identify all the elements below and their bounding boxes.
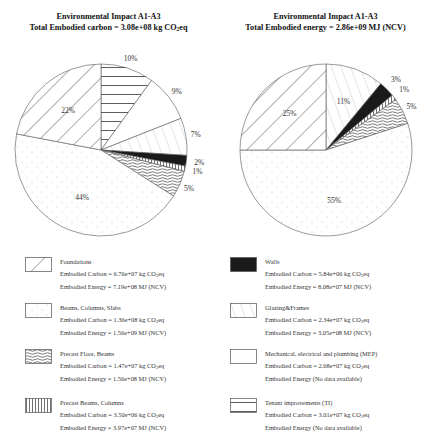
legend-text: WallsEmbodied Carbon = 5.84e+06 kg CO2eq… [265, 256, 371, 293]
legend-item-precast-beams-columns: Precast Beams, ColumnsEmbodied Carbon = … [25, 397, 225, 441]
legend-energy: Embodied Energy = 3.97e+07 MJ (NCV) [60, 422, 166, 434]
legend-carbon: Embodied Carbon = 3.01e+07 kg CO2eq [265, 409, 369, 423]
legend-carbon-unit: eq [158, 270, 164, 277]
legend-carbon: Embodied Carbon = 1.47e+07 kg CO2eq [60, 360, 166, 374]
legend-swatch-solid [230, 257, 257, 272]
legend-energy: Embodied Energy = 7.19e+08 MJ (NCV) [60, 281, 166, 293]
legend-item-mechanical-electrical-and-plumbing-mep: Mechanical, electrical and plumbing (MEP… [230, 348, 430, 392]
pie-label-tenant-improvements-ti: 10% [124, 54, 138, 63]
legend-carbon-value: Embodied Carbon = 2.68e+07 kg CO [265, 362, 361, 369]
legend-text: Tenant improvements (TI)Embodied Carbon … [265, 397, 369, 434]
pie-slice-foundations [240, 64, 326, 150]
legend-item-walls: WallsEmbodied Carbon = 5.84e+06 kg CO2eq… [230, 256, 430, 300]
legend-energy: Embodied Energy (No data available) [265, 373, 377, 385]
legend-carbon-unit: eq [363, 316, 369, 323]
pie-left: 10%9%7%2%1%5%44%22% [15, 54, 204, 236]
pie-label-mechanical-electrical-and-plumbing-mep: 9% [172, 87, 182, 96]
legend-carbon-unit: eq [158, 316, 164, 323]
legend-name: Mechanical, electrical and plumbing (MEP… [265, 348, 377, 360]
legend-carbon: Embodied Carbon = 2.68e+07 kg CO2eq [265, 360, 377, 374]
legend-carbon-value: Embodied Carbon = 3.01e+07 kg CO [265, 411, 361, 418]
legend-energy: Embodied Energy = 8.08e+07 MJ (NCV) [265, 281, 371, 293]
pie-label-precast-floor-beams: 5% [184, 184, 194, 193]
legend-name: Tenant improvements (TI) [265, 397, 369, 409]
legend-carbon-unit: eq [158, 411, 164, 418]
legend-carbon-value: Embodied Carbon = 3.50e+06 kg CO [60, 411, 156, 418]
legend-carbon-unit: eq [363, 270, 369, 277]
pie-label-precast-beams-columns: 1% [193, 167, 203, 176]
legend-swatch-diag-light [230, 303, 257, 318]
legend-carbon: Embodied Carbon = 5.84e+06 kg CO2eq [265, 268, 371, 282]
legend-carbon-value: Embodied Carbon = 1.47e+07 kg CO [60, 362, 156, 369]
pie-label-foundations: 25% [283, 109, 297, 118]
legend-swatch-hlines [230, 398, 257, 413]
legend-name: Beams, Columns, Slabs [60, 302, 166, 314]
pie-label-glazing-frames: 7% [191, 130, 201, 139]
legend-name: Walls [265, 256, 371, 268]
legend-item-beams-columns-slabs: Beams, Columns, SlabsEmbodied Carbon = 1… [25, 302, 225, 346]
legend-name: Precast Beams, Columns [60, 397, 166, 409]
legend-name: Precast Floor, Beams [60, 348, 166, 360]
legend-energy: Embodied Energy = 1.56e+08 MJ (NCV) [60, 373, 166, 385]
legend-text: Mechanical, electrical and plumbing (MEP… [265, 348, 377, 385]
legend-text: FoundationsEmbodied Carbon = 6.76e+07 kg… [60, 256, 166, 293]
legend-carbon-unit: eq [363, 362, 369, 369]
legend-carbon: Embodied Carbon = 2.34e+07 kg CO2eq [265, 314, 371, 328]
pie-label-walls: 3% [391, 75, 401, 84]
legend-item-foundations: FoundationsEmbodied Carbon = 6.76e+07 kg… [25, 256, 225, 300]
legend-name: Glazing&Frames [265, 302, 371, 314]
legend-text: Glazing&FramesEmbodied Carbon = 2.34e+07… [265, 302, 371, 339]
pie-label-walls: 2% [194, 158, 204, 167]
pie-label-precast-beams-columns: 1% [399, 85, 409, 94]
pie-label-beams-columns-slabs: 55% [327, 196, 341, 205]
legend-carbon: Embodied Carbon = 6.76e+07 kg CO2eq [60, 268, 166, 282]
legend-carbon-value: Embodied Carbon = 2.34e+07 kg CO [265, 316, 361, 323]
legend-swatch-vlines [25, 398, 52, 413]
legend-text: Precast Beams, ColumnsEmbodied Carbon = … [60, 397, 166, 434]
legend-carbon: Embodied Carbon = 3.50e+06 kg CO2eq [60, 409, 166, 423]
legend-swatch-blank [230, 349, 257, 364]
legend-item-glazing-frames: Glazing&FramesEmbodied Carbon = 2.34e+07… [230, 302, 430, 346]
legend-item-precast-floor-beams: Precast Floor, BeamsEmbodied Carbon = 1.… [25, 348, 225, 392]
legend-energy: Embodied Energy = 1.56e+09 MJ (NCV) [60, 327, 166, 339]
pie-label-precast-floor-beams: 5% [407, 102, 417, 111]
legend-carbon-value: Embodied Carbon = 6.76e+07 kg CO [60, 270, 156, 277]
legend-swatch-waves [25, 349, 52, 364]
pie-label-glazing-frames: 11% [337, 97, 350, 106]
legend-swatch-dots [25, 303, 52, 318]
legend-text: Beams, Columns, SlabsEmbodied Carbon = 1… [60, 302, 166, 339]
legend-carbon-unit: eq [158, 362, 164, 369]
legend-text: Precast Floor, BeamsEmbodied Carbon = 1.… [60, 348, 166, 385]
legend-energy: Embodied Energy = 3.05e+08 MJ (NCV) [265, 327, 371, 339]
pie-right: 11%3%1%5%55%25% [240, 64, 417, 236]
legend-swatch-diag-wide [25, 257, 52, 272]
legend-energy: Embodied Energy (No data available) [265, 422, 369, 434]
legend-carbon: Embodied Carbon = 1.36e+08 kg CO2eq [60, 314, 166, 328]
pie-label-foundations: 22% [61, 106, 75, 115]
legend-name: Foundations [60, 256, 166, 268]
legend-carbon-value: Embodied Carbon = 1.36e+08 kg CO [60, 316, 156, 323]
pie-label-beams-columns-slabs: 44% [75, 193, 89, 202]
legend-carbon-value: Embodied Carbon = 5.84e+06 kg CO [265, 270, 361, 277]
legend-item-tenant-improvements-ti: Tenant improvements (TI)Embodied Carbon … [230, 397, 430, 441]
legend-carbon-unit: eq [363, 411, 369, 418]
